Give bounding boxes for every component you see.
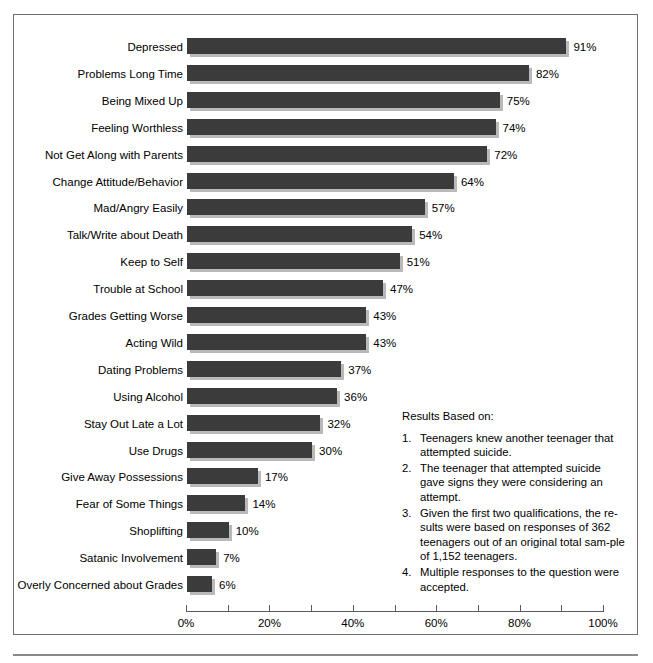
x-axis-tick-label: 20% — [246, 616, 292, 630]
bar-category-label: Dating Problems — [0, 364, 183, 377]
bar-value-label: 54% — [419, 228, 442, 242]
bar — [187, 495, 245, 511]
bar — [187, 173, 454, 189]
bar — [187, 415, 320, 431]
bar-row: Dating Problems37% — [14, 360, 639, 384]
bar-row: Feeling Worthless74% — [14, 118, 639, 142]
bar-category-label: Give Away Possessions — [0, 471, 183, 484]
bar-row: Not Get Along with Parents72% — [14, 145, 639, 169]
bar-category-label: Mad/Angry Easily — [0, 202, 183, 215]
bar-row: Depressed91% — [14, 37, 639, 61]
bar-value-label: 30% — [319, 444, 342, 458]
x-axis-tick — [520, 605, 521, 612]
results-notes-block: Results Based on: 1.Teenagers knew anoth… — [402, 409, 627, 595]
bar — [187, 119, 496, 135]
note-text: Given the first two qualifications, the … — [420, 507, 625, 563]
bar — [187, 576, 212, 592]
bar — [187, 361, 341, 377]
x-axis-tick — [561, 605, 562, 612]
x-axis-tick-label: 80% — [497, 616, 543, 630]
bar-value-label: 64% — [461, 175, 484, 189]
bar-value-label: 17% — [265, 470, 288, 484]
bar-value-label: 43% — [373, 309, 396, 323]
bar — [187, 549, 216, 565]
bar-value-label: 36% — [344, 390, 367, 404]
notes-list: 1.Teenagers knew another teenager that a… — [402, 431, 627, 595]
note-text: Teenagers knew another teenager that att… — [420, 432, 613, 459]
note-item: 1.Teenagers knew another teenager that a… — [402, 431, 627, 460]
bar-row: Talk/Write about Death54% — [14, 225, 639, 249]
bar-category-label: Depressed — [0, 41, 183, 54]
bar — [187, 226, 412, 242]
note-number: 4. — [402, 565, 411, 580]
bar-value-label: 91% — [573, 40, 596, 54]
x-axis-tick — [186, 605, 187, 612]
bar — [187, 253, 400, 269]
bar-value-label: 74% — [503, 121, 526, 135]
note-item: 4.Multiple responses to the question wer… — [402, 565, 627, 594]
x-axis-tick — [436, 605, 437, 612]
bar-value-label: 75% — [507, 94, 530, 108]
bar-row: Mad/Angry Easily57% — [14, 198, 639, 222]
bar-category-label: Stay Out Late a Lot — [0, 418, 183, 431]
bar-row: Acting Wild43% — [14, 333, 639, 357]
bar — [187, 65, 529, 81]
bar-row: Trouble at School47% — [14, 279, 639, 303]
x-axis-tick-label: 0% — [163, 616, 209, 630]
bar-category-label: Shoplifting — [0, 525, 183, 538]
bar-category-label: Using Alcohol — [0, 391, 183, 404]
bar-value-label: 47% — [390, 282, 413, 296]
bottom-rule — [13, 654, 638, 656]
bar-row: Being Mixed Up75% — [14, 91, 639, 115]
bar-value-label: 57% — [432, 201, 455, 215]
bar-category-label: Being Mixed Up — [0, 95, 183, 108]
bar — [187, 334, 366, 350]
bar-category-label: Problems Long Time — [0, 68, 183, 81]
bar-category-label: Grades Getting Worse — [0, 310, 183, 323]
bar — [187, 522, 229, 538]
x-axis-tick — [269, 605, 270, 612]
chart-frame: Depressed91%Problems Long Time82%Being M… — [13, 14, 638, 635]
x-axis-tick-label: 40% — [330, 616, 376, 630]
note-text: Multiple responses to the question were … — [420, 566, 619, 593]
bar-value-label: 32% — [327, 417, 350, 431]
bar-value-label: 10% — [236, 524, 259, 538]
bar — [187, 146, 487, 162]
bar-category-label: Feeling Worthless — [0, 122, 183, 135]
bar-value-label: 51% — [407, 255, 430, 269]
note-item: 3.Given the first two qualifications, th… — [402, 506, 627, 564]
bar-value-label: 37% — [348, 363, 371, 377]
x-axis-tick-label: 100% — [580, 616, 626, 630]
bar-row: Grades Getting Worse43% — [14, 306, 639, 330]
x-axis-tick-label: 60% — [413, 616, 459, 630]
bar-category-label: Change Attitude/Behavior — [0, 176, 183, 189]
note-item: 2.The teenager that attempted suicide ga… — [402, 461, 627, 505]
note-number: 2. — [402, 461, 411, 476]
bar-row: Change Attitude/Behavior64% — [14, 172, 639, 196]
bar-value-label: 7% — [223, 551, 240, 565]
bar-category-label: Not Get Along with Parents — [0, 149, 183, 162]
bar-category-label: Fear of Some Things — [0, 498, 183, 511]
note-number: 1. — [402, 431, 411, 446]
x-axis-tick — [311, 605, 312, 612]
x-axis-tick — [353, 605, 354, 612]
bar — [187, 442, 312, 458]
note-text: The teenager that attempted suicide gave… — [420, 462, 603, 503]
bar-row: Keep to Self51% — [14, 252, 639, 276]
chart-page: Depressed91%Problems Long Time82%Being M… — [0, 0, 653, 663]
bar-category-label: Trouble at School — [0, 283, 183, 296]
bar-value-label: 72% — [494, 148, 517, 162]
bar-row: Using Alcohol36% — [14, 387, 639, 411]
bar-category-label: Keep to Self — [0, 256, 183, 269]
x-axis-tick — [228, 605, 229, 612]
bar-category-label: Use Drugs — [0, 445, 183, 458]
bar — [187, 307, 366, 323]
bar — [187, 468, 258, 484]
bar — [187, 388, 337, 404]
bar — [187, 92, 500, 108]
bar-value-label: 14% — [252, 497, 275, 511]
bar-category-label: Overly Concerned about Grades — [0, 579, 183, 592]
x-axis-tick — [395, 605, 396, 612]
x-axis-tick — [603, 605, 604, 612]
bar-row: Problems Long Time82% — [14, 64, 639, 88]
